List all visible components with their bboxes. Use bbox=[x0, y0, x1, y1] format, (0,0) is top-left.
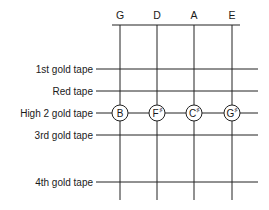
sharp-icon: ♯ bbox=[160, 107, 163, 113]
string-label: A bbox=[190, 9, 197, 21]
string-label: D bbox=[153, 9, 161, 21]
tape-label: 3rd gold tape bbox=[35, 130, 94, 141]
sharp-icon: ♯ bbox=[197, 107, 200, 113]
string-label: G bbox=[116, 9, 124, 21]
note-letter: G bbox=[227, 108, 235, 119]
tape-label: Red tape bbox=[52, 86, 93, 97]
tape-label: 1st gold tape bbox=[36, 64, 94, 75]
string-label: E bbox=[228, 9, 235, 21]
note-letter: B bbox=[117, 108, 124, 119]
tape-label: 4th gold tape bbox=[35, 177, 93, 188]
note-letter: F bbox=[152, 108, 158, 119]
tape-label: High 2 gold tape bbox=[20, 108, 93, 119]
sharp-icon: ♯ bbox=[235, 107, 238, 113]
fingerboard-diagram: GDAE1st gold tapeRed tapeHigh 2 gold tap… bbox=[0, 0, 269, 210]
note-letter: C bbox=[189, 108, 196, 119]
